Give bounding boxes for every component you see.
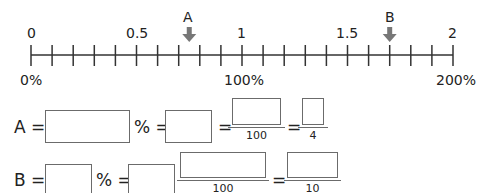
row-b-percent-label: % = — [96, 170, 132, 190]
row-b-fraction2-numerator-input[interactable] — [287, 152, 338, 178]
tick-label-1: 1 — [237, 25, 246, 41]
row-b-fraction2-denominator: 10 — [284, 183, 341, 193]
tick-label-0.5: 0.5 — [126, 25, 148, 41]
marker-label-b: B — [385, 9, 395, 25]
row-a-fraction2-denominator: 4 — [298, 130, 328, 142]
row-b-label: B = — [14, 170, 45, 190]
row-a-var: A — [14, 117, 26, 137]
tick-label-1.5: 1.5 — [336, 25, 358, 41]
row-b-percent-sign: % — [96, 170, 112, 190]
row-a-fraction2-numerator-input[interactable] — [302, 98, 324, 125]
row-b-fraction2-bar — [284, 180, 341, 181]
percent-label-200: 200% — [436, 72, 476, 88]
percent-label-100: 100% — [224, 72, 264, 88]
row-a-fraction1-numerator-input[interactable] — [232, 98, 281, 125]
percent-label-0: 0% — [20, 72, 42, 88]
row-b-equals: = — [31, 170, 45, 190]
tick-label-2: 2 — [448, 25, 457, 41]
row-b-var: B — [14, 170, 26, 190]
marker-label-a: A — [183, 9, 193, 25]
row-b-decimal-input[interactable] — [45, 164, 92, 193]
row-b-fraction1-denominator: 100 — [177, 183, 269, 193]
row-a-label: A = — [14, 117, 45, 137]
row-a-percent-input[interactable] — [165, 110, 212, 143]
row-a-fraction2-bar — [298, 127, 328, 128]
row-a-fraction1-bar — [228, 127, 285, 128]
row-a-decimal-input[interactable] — [45, 110, 130, 143]
tick-label-0: 0 — [27, 25, 36, 41]
row-a-percent-sign: % — [134, 117, 150, 137]
row-a-fraction1-denominator: 100 — [228, 130, 285, 142]
row-b-percent-input[interactable] — [128, 164, 175, 193]
row-a-equals: = — [31, 117, 45, 137]
row-b-fraction1-bar — [177, 180, 269, 181]
row-b-fraction1-numerator-input[interactable] — [180, 152, 266, 178]
